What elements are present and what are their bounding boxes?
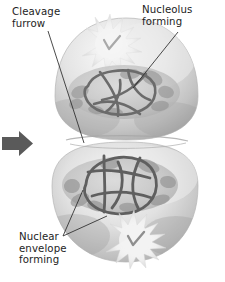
daughter-cell-upper: [40, 14, 206, 140]
label-nuclear-envelope-forming: Nuclear envelope forming: [19, 231, 67, 266]
nucleus-upper: [68, 65, 180, 119]
arrow-right-icon: [2, 131, 33, 156]
cell-division-figure: Cleavage furrow Nucleolus forming Nuclea…: [0, 0, 225, 282]
label-cleavage-furrow: Cleavage furrow: [12, 6, 60, 29]
label-nucleolus-forming: Nucleolus forming: [142, 4, 193, 27]
